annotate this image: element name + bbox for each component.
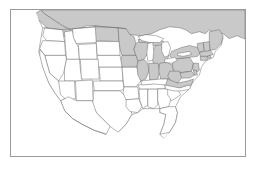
region-kansas[interactable] (99, 67, 123, 81)
region-oregon[interactable] (40, 41, 66, 56)
region-nebraska[interactable] (97, 55, 122, 67)
region-new-mexico[interactable] (75, 80, 93, 101)
region-arkansas[interactable] (123, 87, 139, 100)
region-north-dakota[interactable] (94, 26, 119, 42)
region-oklahoma[interactable] (93, 81, 124, 91)
region-south-dakota[interactable] (96, 42, 120, 56)
region-iowa[interactable] (120, 55, 138, 67)
region-wyoming[interactable] (78, 44, 97, 60)
map-figure: Map of the contiguous United States Outl… (0, 0, 256, 171)
region-alabama[interactable] (148, 89, 158, 109)
region-washington[interactable] (43, 28, 65, 42)
region-utah[interactable] (65, 59, 83, 81)
region-kentucky[interactable] (141, 79, 168, 85)
water-lake-michigan (147, 43, 154, 62)
map-frame: Map of the contiguous United States Outl… (10, 9, 246, 157)
region-colorado[interactable] (80, 59, 99, 79)
region-connecticut[interactable] (200, 56, 207, 60)
region-montana[interactable] (72, 27, 96, 44)
us-map-svg[interactable]: Map of the contiguous United States Outl… (11, 10, 245, 156)
region-indiana[interactable] (149, 63, 160, 80)
